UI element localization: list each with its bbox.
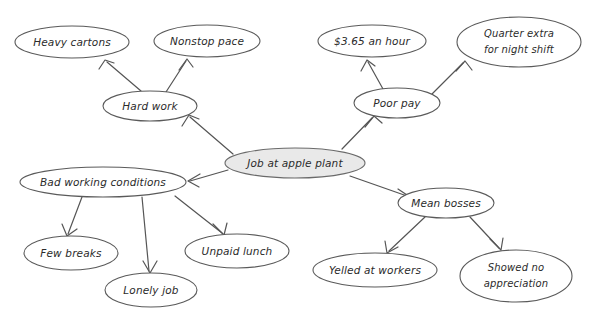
leaf-node-quarter-extra[interactable]: Quarter extrafor night shift (457, 17, 581, 67)
leaf-node-yelled-at-workers[interactable]: Yelled at workers (313, 253, 437, 287)
node-label: Bad working conditions (40, 176, 166, 188)
branch-node-hard-work[interactable]: Hard work (103, 91, 197, 121)
branch-node-mean-bosses[interactable]: Mean bosses (398, 188, 494, 218)
leaf-node-lonely-job[interactable]: Lonely job (105, 273, 197, 307)
edge-line (68, 197, 82, 234)
edge-line (175, 196, 222, 233)
node-label: Lonely job (123, 284, 179, 296)
leaf-node-nonstop-pace[interactable]: Nonstop pace (154, 25, 260, 57)
edge-line (190, 117, 233, 154)
edge-arrowhead (99, 60, 114, 69)
center-node-center[interactable]: Job at apple plant (225, 148, 365, 178)
edge-line (142, 197, 149, 271)
edge-arrowhead (143, 261, 157, 273)
node-label: Job at apple plant (245, 157, 343, 169)
concept-map-canvas: Heavy cartonsNonstop pace$3.65 an hourQu… (0, 0, 590, 318)
node-label: Few breaks (40, 247, 102, 259)
node-label: Mean bosses (411, 197, 481, 209)
leaf-node-unpaid-lunch[interactable]: Unpaid lunch (185, 234, 289, 268)
node-label: Nonstop pace (170, 35, 244, 47)
branch-node-bad-working-conditions[interactable]: Bad working conditions (20, 167, 186, 197)
edge-arrowhead (213, 223, 227, 235)
node-ellipse (460, 250, 572, 302)
edge-line (389, 217, 425, 251)
edge-arrowhead (385, 241, 398, 253)
leaf-node-few-breaks[interactable]: Few breaks (24, 236, 118, 270)
edge-arrowhead (365, 116, 382, 127)
node-label: $3.65 an hour (334, 35, 410, 47)
leaf-node-heavy-cartons[interactable]: Heavy cartons (15, 26, 129, 58)
node-label: Poor pay (373, 97, 421, 109)
nodes-group: Heavy cartonsNonstop pace$3.65 an hourQu… (15, 17, 581, 307)
leaf-node-showed-no-appreciation[interactable]: Showed noappreciation (460, 250, 572, 302)
concept-map-svg: Heavy cartonsNonstop pace$3.65 an hourQu… (0, 0, 590, 318)
node-ellipse (457, 17, 581, 67)
edge-line (166, 61, 186, 92)
node-label: Hard work (122, 100, 178, 112)
edge-line (107, 62, 141, 91)
node-label: Unpaid lunch (202, 245, 273, 257)
node-label: Yelled at workers (329, 264, 421, 276)
edge-arrowhead (188, 174, 200, 187)
node-label: Heavy cartons (33, 36, 111, 48)
node-label-line1: Quarter extra (484, 28, 554, 39)
edge-line (350, 176, 407, 196)
branch-node-poor-pay[interactable]: Poor pay (354, 88, 440, 118)
node-label-line2: for night shift (484, 44, 555, 55)
edge-line (190, 170, 228, 181)
node-label-line1: Showed no (488, 262, 544, 273)
node-label-line2: appreciation (484, 278, 548, 289)
leaf-node-dollar-rate[interactable]: $3.65 an hour (318, 25, 426, 57)
edge-arrowhead (456, 61, 472, 71)
edge-line (342, 118, 372, 149)
